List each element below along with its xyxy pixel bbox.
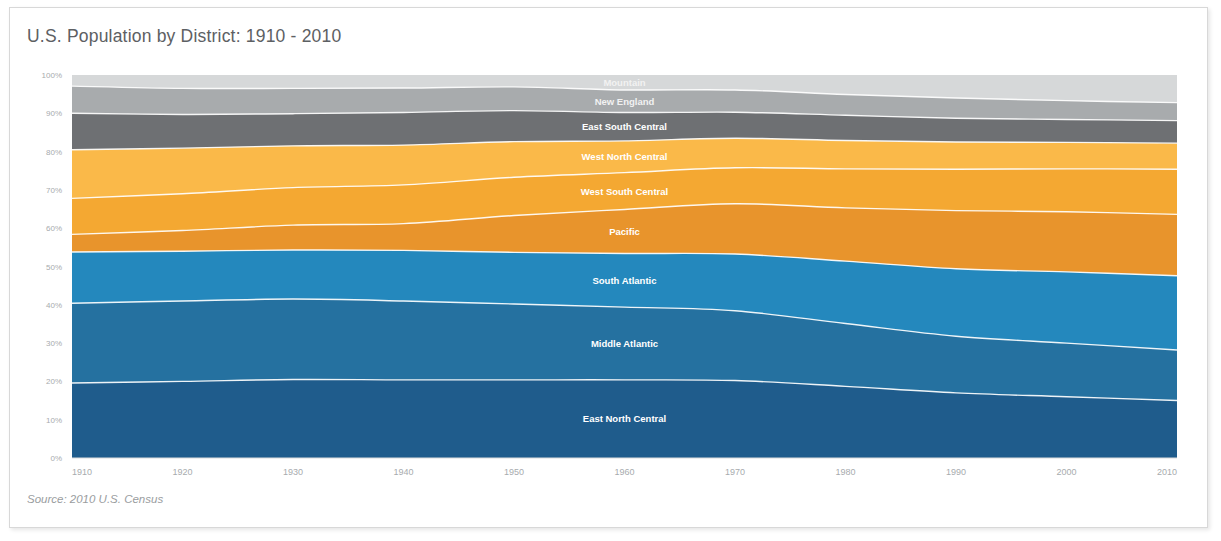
x-axis-tick-label: 2000	[1056, 467, 1076, 477]
x-axis-tick-label: 2010	[1157, 467, 1177, 477]
y-axis-tick-label: 0%	[50, 454, 62, 463]
y-axis-tick-label: 40%	[46, 301, 62, 310]
x-axis-tick-label: 1930	[283, 467, 303, 477]
series-label: Mountain	[603, 77, 645, 88]
page-title: U.S. Population by District: 1910 - 2010	[27, 26, 341, 47]
y-axis-tick-label: 20%	[46, 377, 62, 386]
x-axis-tick-label: 1990	[946, 467, 966, 477]
x-axis-tick-label: 1910	[72, 467, 92, 477]
x-axis-ticks: 1910192019301940195019601970198019902000…	[72, 458, 1177, 477]
y-axis-tick-label: 60%	[46, 224, 62, 233]
y-axis-tick-label: 70%	[46, 186, 62, 195]
y-axis-tick-label: 90%	[46, 109, 62, 118]
x-axis-tick-label: 1950	[504, 467, 524, 477]
series-label: New England	[595, 96, 655, 107]
x-axis-tick-label: 1980	[835, 467, 855, 477]
series-label: South Atlantic	[592, 275, 656, 286]
source-note: Source: 2010 U.S. Census	[27, 493, 163, 505]
x-axis-tick-label: 1920	[172, 467, 192, 477]
x-axis-tick-label: 1970	[725, 467, 745, 477]
y-axis-tick-label: 80%	[46, 148, 62, 157]
series-label: West South Central	[581, 186, 668, 197]
x-axis-tick-label: 1940	[393, 467, 413, 477]
stacked-area-chart: 0%10%20%30%40%50%60%70%80%90%100% East N…	[10, 58, 1209, 488]
y-axis-tick-label: 10%	[46, 416, 62, 425]
series-label: East North Central	[583, 413, 666, 424]
series-label: East South Central	[582, 121, 667, 132]
area-bands	[72, 75, 1177, 458]
x-axis-tick-label: 1960	[614, 467, 634, 477]
series-label: West North Central	[582, 151, 668, 162]
series-label: Pacific	[609, 226, 640, 237]
y-axis-tick-label: 100%	[42, 71, 62, 80]
chart-card: U.S. Population by District: 1910 - 2010…	[9, 7, 1208, 528]
y-axis-tick-label: 50%	[46, 263, 62, 272]
chart-plot-area: 0%10%20%30%40%50%60%70%80%90%100% East N…	[10, 58, 1209, 488]
series-label: Middle Atlantic	[591, 338, 658, 349]
y-axis-ticks: 0%10%20%30%40%50%60%70%80%90%100%	[42, 71, 62, 463]
y-axis-tick-label: 30%	[46, 339, 62, 348]
